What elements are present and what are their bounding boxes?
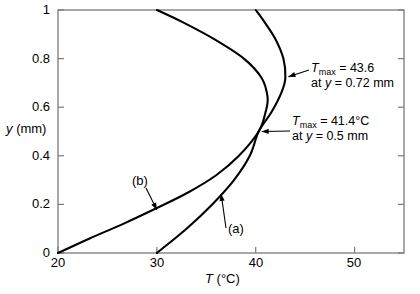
ytick-label-0_6: 0.6 [12,100,50,114]
x-axis-label-var: T [205,271,213,286]
tmax-b-yvalue: = 0.5 mm [312,129,368,143]
annotation-tmax-b: Tmax = 41.4°C at y = 0.5 mm [292,115,369,144]
annotation-tmax-a-line1: Tmax = 43.6 [311,62,394,77]
xtick-label-30: 30 [137,256,177,270]
annotation-leaders [146,70,309,228]
leader-tmax-a-head [288,72,296,77]
annotation-tmax-a: Tmax = 43.6 at y = 0.72 mm [311,62,394,91]
chart-canvas [0,0,420,294]
xtick-label-50: 50 [334,256,374,270]
y-axis-label: y (mm) [6,122,46,136]
tmax-a-value: = 43.6 [336,61,375,75]
xtick-label-20: 20 [38,256,78,270]
figure-container: 1 0.8 0.6 0.4 0.2 0 20 30 40 50 y (mm) T… [0,0,420,294]
tmax-b-value: = 41.4°C [317,114,370,128]
tmax-b-symbol: T [292,114,300,128]
ytick-label-0_4: 0.4 [12,149,50,163]
xtick-label-40: 40 [236,256,276,270]
tmax-a-symbol: T [311,61,319,75]
curve-label-a: (a) [228,222,244,236]
tmax-a-subscript: max [319,67,336,77]
tmax-b-subscript: max [300,120,317,130]
ytick-label-0_8: 0.8 [12,52,50,66]
annotation-tmax-b-line1: Tmax = 41.4°C [292,115,369,130]
x-axis-label-unit: (°C) [217,271,240,286]
tmax-a-at: at [311,76,325,90]
curve-b [58,10,268,253]
x-axis-label: T (°C) [205,272,240,286]
annotation-tmax-b-line2: at y = 0.5 mm [292,130,369,144]
ytick-label-1: 1 [12,3,50,17]
annotation-tmax-a-line2: at y = 0.72 mm [311,77,394,91]
curve-label-b: (b) [132,174,148,188]
tmax-a-yvalue: = 0.72 mm [331,76,394,90]
leader-tmax-b-head [262,129,269,134]
data-curves [58,10,285,253]
ytick-label-0_2: 0.2 [12,197,50,211]
tmax-b-at: at [292,129,306,143]
y-axis-label-unit: (mm) [16,121,46,136]
